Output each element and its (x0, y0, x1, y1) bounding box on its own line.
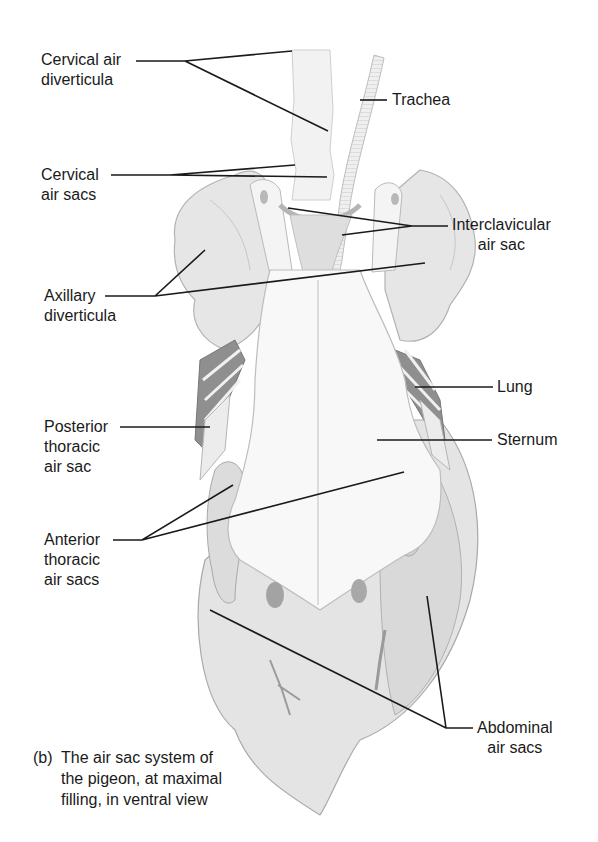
label-line: diverticula (44, 306, 116, 326)
caption-line: The air sac system of (33, 747, 222, 768)
label-cervical-air-diverticula: Cervical air diverticula (41, 50, 121, 90)
label-line: diverticula (41, 70, 121, 90)
label-lung: Lung (497, 377, 533, 397)
label-line: air sac (44, 457, 108, 477)
label-line: Cervical (41, 165, 99, 185)
caption-line: the pigeon, at maximal (33, 768, 222, 789)
label-interclavicular-air-sac: Interclavicular air sac (452, 215, 551, 255)
label-line: Axillary (44, 286, 116, 306)
caption-line: filling, in ventral view (33, 789, 222, 810)
label-line: Cervical air (41, 50, 121, 70)
label-posterior-thoracic-air-sac: Posterior thoracic air sac (44, 417, 108, 477)
label-line: Sternum (497, 430, 557, 450)
label-line: thoracic (44, 437, 108, 457)
panel-tag: (b) (33, 747, 53, 768)
label-line: air sacs (44, 570, 100, 590)
label-line: Anterior (44, 530, 100, 550)
label-line: Trachea (392, 90, 450, 110)
label-line: Lung (497, 377, 533, 397)
label-abdominal-air-sacs: Abdominal air sacs (477, 718, 553, 758)
label-axillary-diverticula: Axillary diverticula (44, 286, 116, 326)
label-line: Interclavicular (452, 215, 551, 235)
label-trachea: Trachea (392, 90, 450, 110)
label-line: Posterior (44, 417, 108, 437)
label-line: air sac (452, 235, 551, 255)
label-cervical-air-sacs: Cervical air sacs (41, 165, 99, 205)
label-sternum: Sternum (497, 430, 557, 450)
label-anterior-thoracic-air-sacs: Anterior thoracic air sacs (44, 530, 100, 590)
label-line: thoracic (44, 550, 100, 570)
figure-caption: (b) The air sac system of the pigeon, at… (33, 747, 222, 810)
label-line: air sacs (41, 185, 99, 205)
label-line: Abdominal (477, 718, 553, 738)
label-line: air sacs (477, 738, 553, 758)
